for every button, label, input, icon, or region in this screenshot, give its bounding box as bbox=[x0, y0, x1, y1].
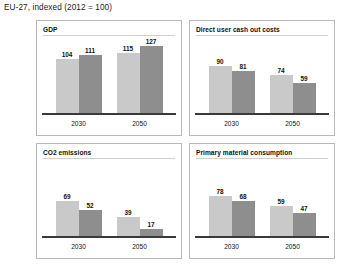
bar-dark bbox=[232, 71, 255, 115]
axis-baseline bbox=[42, 113, 176, 115]
bar-dark bbox=[293, 213, 316, 239]
x-tick-label: 2030 bbox=[56, 120, 102, 127]
chart-panel-primary-material-consumption: Primary material consumption 78 68 59 bbox=[189, 143, 335, 259]
bar-item: 39 bbox=[117, 162, 140, 238]
bar-item: 127 bbox=[140, 39, 163, 115]
bar-item: 59 bbox=[293, 39, 316, 115]
axis-baseline bbox=[195, 236, 329, 238]
bar-group-2030: 78 68 bbox=[209, 162, 255, 238]
bar-value-label: 81 bbox=[232, 63, 255, 70]
bar-group-2050: 59 47 bbox=[270, 162, 316, 238]
bar-item: 59 bbox=[270, 162, 293, 238]
bar-item: 90 bbox=[209, 39, 232, 115]
bar-value-label: 90 bbox=[209, 58, 232, 65]
bar-dark bbox=[79, 55, 102, 115]
x-tick-label: 2050 bbox=[270, 243, 316, 250]
plot-area: 69 52 39 17 bbox=[42, 162, 176, 255]
bar-series: 78 68 59 47 bbox=[201, 162, 323, 238]
bar-light bbox=[209, 66, 232, 115]
bar-value-label: 74 bbox=[270, 67, 293, 74]
axis-baseline bbox=[195, 113, 329, 115]
x-axis-labels: 2030 2050 bbox=[201, 239, 323, 253]
x-tick-label: 2050 bbox=[270, 120, 316, 127]
bar-value-label: 111 bbox=[79, 47, 102, 54]
bar-value-label: 104 bbox=[56, 51, 79, 58]
bar-group-2030: 90 81 bbox=[209, 39, 255, 115]
bar-series: 90 81 74 59 bbox=[201, 39, 323, 115]
plot-area: 104 111 115 127 bbox=[42, 39, 176, 132]
chart-panel-co2-emissions: CO2 emissions 69 52 39 bbox=[36, 143, 182, 259]
bar-item: 81 bbox=[232, 39, 255, 115]
bar-series: 69 52 39 17 bbox=[48, 162, 170, 238]
bar-group-2050: 39 17 bbox=[117, 162, 163, 238]
bar-dark bbox=[232, 201, 255, 238]
bar-light bbox=[56, 59, 79, 115]
bar-item: 68 bbox=[232, 162, 255, 238]
bar-group-2030: 104 111 bbox=[56, 39, 102, 115]
bar-group-2050: 74 59 bbox=[270, 39, 316, 115]
panel-title: Primary material consumption bbox=[196, 149, 328, 159]
bar-value-label: 17 bbox=[140, 221, 163, 228]
panel-title: GDP bbox=[43, 26, 175, 36]
plot-area: 90 81 74 59 bbox=[195, 39, 329, 132]
bar-value-label: 39 bbox=[117, 209, 140, 216]
bar-series: 104 111 115 127 bbox=[48, 39, 170, 115]
bar-value-label: 127 bbox=[140, 38, 163, 45]
bar-dark bbox=[140, 46, 163, 115]
plot-area: 78 68 59 47 bbox=[195, 162, 329, 255]
panel-title: CO2 emissions bbox=[43, 149, 175, 159]
panel-title: Direct user cash out costs bbox=[196, 26, 328, 36]
bar-value-label: 68 bbox=[232, 193, 255, 200]
x-tick-label: 2050 bbox=[117, 120, 163, 127]
chart-panel-gdp: GDP 104 111 115 bbox=[36, 20, 182, 136]
chart-panel-grid: GDP 104 111 115 bbox=[36, 20, 335, 259]
x-tick-label: 2030 bbox=[209, 120, 255, 127]
x-tick-label: 2030 bbox=[56, 243, 102, 250]
bar-light bbox=[270, 206, 293, 238]
x-axis-labels: 2030 2050 bbox=[201, 116, 323, 130]
bar-light bbox=[117, 53, 140, 115]
bar-item: 52 bbox=[79, 162, 102, 238]
axis-baseline bbox=[42, 236, 176, 238]
bar-group-2050: 115 127 bbox=[117, 39, 163, 115]
bar-item: 111 bbox=[79, 39, 102, 115]
bar-item: 47 bbox=[293, 162, 316, 238]
bar-dark bbox=[79, 210, 102, 238]
bar-item: 115 bbox=[117, 39, 140, 115]
x-axis-labels: 2030 2050 bbox=[48, 239, 170, 253]
bar-value-label: 78 bbox=[209, 188, 232, 195]
x-tick-label: 2030 bbox=[209, 243, 255, 250]
bar-item: 104 bbox=[56, 39, 79, 115]
figure-caption: EU-27, indexed (2012 = 100) bbox=[4, 3, 112, 12]
bar-item: 78 bbox=[209, 162, 232, 238]
bar-item: 17 bbox=[140, 162, 163, 238]
bar-light bbox=[270, 75, 293, 115]
bar-item: 69 bbox=[56, 162, 79, 238]
bar-value-label: 52 bbox=[79, 202, 102, 209]
bar-light bbox=[117, 217, 140, 238]
x-tick-label: 2050 bbox=[117, 243, 163, 250]
bar-dark bbox=[293, 83, 316, 115]
bar-value-label: 69 bbox=[56, 193, 79, 200]
bar-item: 74 bbox=[270, 39, 293, 115]
bar-group-2030: 69 52 bbox=[56, 162, 102, 238]
bar-light bbox=[56, 201, 79, 238]
bar-light bbox=[209, 196, 232, 238]
bar-value-label: 59 bbox=[270, 198, 293, 205]
bar-value-label: 115 bbox=[117, 45, 140, 52]
bar-value-label: 59 bbox=[293, 75, 316, 82]
chart-panel-direct-user-cash-out-costs: Direct user cash out costs 90 81 74 bbox=[189, 20, 335, 136]
bar-value-label: 47 bbox=[293, 205, 316, 212]
x-axis-labels: 2030 2050 bbox=[48, 116, 170, 130]
